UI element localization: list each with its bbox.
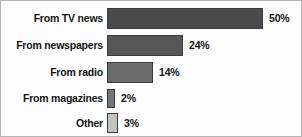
category-label: Other xyxy=(0,118,103,129)
bar-row: From newspapers 24% xyxy=(1,35,301,56)
category-label: From magazines xyxy=(0,93,103,104)
bar xyxy=(107,113,118,133)
category-label: From radio xyxy=(0,67,103,78)
bar-value-label: 3% xyxy=(124,118,139,129)
bar-chart-plot-area: From TV news 50% From newspapers 24% Fro… xyxy=(1,1,301,136)
bar-row: From magazines 2% xyxy=(1,89,301,108)
bar xyxy=(107,35,183,56)
bar-value-label: 24% xyxy=(189,40,209,51)
category-label: From TV news xyxy=(0,13,103,24)
bar-row: Other 3% xyxy=(1,113,301,133)
bar-group: 50% xyxy=(107,8,289,29)
bar-chart: From TV news 50% From newspapers 24% Fro… xyxy=(0,0,302,137)
bar-value-label: 50% xyxy=(269,13,289,24)
bar-value-label: 14% xyxy=(159,67,179,78)
bar-row: From TV news 50% xyxy=(1,8,301,29)
bar-row: From radio 14% xyxy=(1,62,301,83)
bar xyxy=(107,62,153,83)
bar-value-label: 2% xyxy=(121,93,136,104)
bar-group: 24% xyxy=(107,35,209,56)
bar-group: 14% xyxy=(107,62,179,83)
bar-group: 2% xyxy=(107,89,136,108)
bar xyxy=(107,89,115,108)
bar-group: 3% xyxy=(107,113,139,133)
category-label: From newspapers xyxy=(0,40,103,51)
bar xyxy=(107,8,263,29)
